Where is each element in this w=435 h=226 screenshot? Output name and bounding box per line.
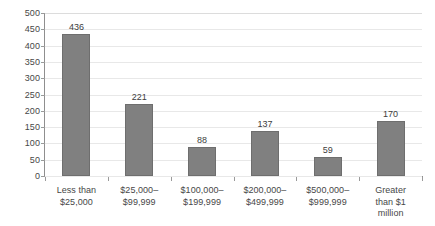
y-tick-mark <box>41 13 45 14</box>
x-category-label: Less than $25,000 <box>45 185 108 208</box>
y-tick-label: 450 <box>2 25 40 34</box>
x-category-label: $200,000– $499,999 <box>234 185 297 208</box>
x-tick-mark <box>108 177 109 181</box>
y-tick-label: 150 <box>2 123 40 132</box>
x-tick-mark <box>296 177 297 181</box>
bar-value-label: 170 <box>361 110 421 119</box>
gridline <box>45 62 422 63</box>
bar-value-label: 436 <box>46 23 106 32</box>
bar <box>62 34 90 176</box>
y-tick-mark <box>41 78 45 79</box>
gridline <box>45 13 422 14</box>
y-tick-mark <box>41 176 45 177</box>
bar <box>377 121 405 176</box>
gridline <box>45 127 422 128</box>
x-category-label: Greater than $1 million <box>359 185 422 220</box>
x-category-label: $25,000– $99,999 <box>108 185 171 208</box>
x-tick-mark <box>234 177 235 181</box>
gridline <box>45 143 422 144</box>
y-tick-label: 400 <box>2 41 40 50</box>
x-category-label: $100,000– $199,999 <box>171 185 234 208</box>
bar-chart: 050100150200250300350400450500 Less than… <box>0 0 435 226</box>
bar <box>251 131 279 176</box>
y-axis: 050100150200250300350400450500 <box>0 0 40 226</box>
y-tick-label: 350 <box>2 57 40 66</box>
y-tick-label: 50 <box>2 155 40 164</box>
x-tick-mark <box>45 177 46 181</box>
bar-value-label: 88 <box>172 136 232 145</box>
bar-value-label: 221 <box>109 93 169 102</box>
y-tick-mark <box>41 111 45 112</box>
y-tick-mark <box>41 29 45 30</box>
gridline <box>45 160 422 161</box>
y-tick-label: 500 <box>2 9 40 18</box>
plot-area <box>45 13 422 176</box>
bar <box>188 147 216 176</box>
y-tick-mark <box>41 143 45 144</box>
y-tick-label: 250 <box>2 90 40 99</box>
bar-value-label: 59 <box>298 146 358 155</box>
y-tick-mark <box>41 95 45 96</box>
x-tick-mark <box>359 177 360 181</box>
x-category-label: $500,000– $999,999 <box>296 185 359 208</box>
x-tick-mark <box>422 177 423 181</box>
y-tick-mark <box>41 46 45 47</box>
gridline <box>45 78 422 79</box>
y-tick-label: 200 <box>2 106 40 115</box>
y-tick-mark <box>41 127 45 128</box>
y-tick-mark <box>41 160 45 161</box>
x-tick-mark <box>171 177 172 181</box>
y-tick-label: 0 <box>2 172 40 181</box>
gridline <box>45 46 422 47</box>
y-tick-mark <box>41 62 45 63</box>
bar <box>314 157 342 176</box>
y-tick-label: 100 <box>2 139 40 148</box>
gridline <box>45 95 422 96</box>
y-tick-label: 300 <box>2 74 40 83</box>
bar-value-label: 137 <box>235 120 295 129</box>
bar <box>125 104 153 176</box>
